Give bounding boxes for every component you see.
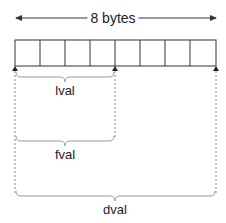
pointer-start-icon (12, 66, 18, 71)
memory-diagram (0, 0, 226, 223)
dval-label: dval (103, 202, 127, 217)
pointer-end-icon (213, 66, 219, 71)
pointer-mid-icon (112, 66, 118, 71)
dval-brace (16, 191, 215, 201)
byte-cells (15, 40, 216, 66)
size-label: 8 bytes (87, 10, 138, 26)
fval-label: fval (55, 147, 75, 162)
lval-label: lval (55, 83, 75, 98)
lval-brace (16, 72, 114, 82)
fval-brace (16, 136, 114, 146)
